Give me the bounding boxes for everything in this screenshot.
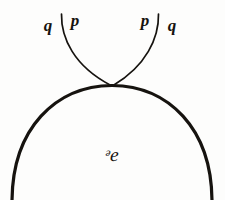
figure-canvas: q p p q ᵊe	[0, 0, 225, 200]
diagram-svg	[0, 0, 225, 200]
branch-label-right-outer: q	[168, 17, 177, 34]
branch-label-right-inner: p	[141, 12, 150, 29]
right-branch	[114, 14, 159, 85]
branch-label-left-outer: q	[44, 17, 53, 34]
curve-group	[12, 14, 212, 200]
region-label-s: ᵊe	[104, 145, 120, 164]
left-branch	[61, 14, 110, 85]
branch-label-left-inner: p	[71, 12, 80, 29]
